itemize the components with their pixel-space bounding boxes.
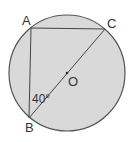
label-a: A [22,13,31,28]
label-b: B [25,120,34,135]
circle-triangle-diagram: A C B O 40° [0,0,133,142]
label-c: C [107,16,116,31]
label-o: O [68,74,78,89]
angle-label-b: 40° [32,92,50,106]
